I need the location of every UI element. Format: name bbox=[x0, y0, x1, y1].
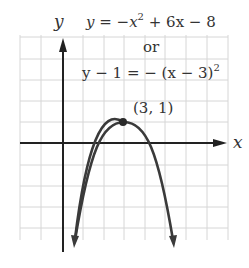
equation-vertex-form: y − 1 = − (x − 3)2 bbox=[81, 62, 220, 82]
curve-right-arrow-icon bbox=[169, 235, 177, 248]
x-axis-label: x bbox=[233, 132, 243, 152]
vertex-label: (3, 1) bbox=[133, 99, 173, 117]
or-connector: or bbox=[143, 38, 160, 56]
y-axis-label: y bbox=[53, 11, 64, 31]
equation-standard: y = −x2 + 6x − 8 bbox=[85, 11, 216, 31]
y-axis bbox=[59, 38, 67, 252]
y-axis-arrow-icon bbox=[59, 38, 67, 52]
x-axis-arrow-icon bbox=[213, 139, 227, 147]
vertex-point bbox=[119, 118, 127, 126]
parabola-figure: y x y = −x2 + 6x − 8 or y − 1 = − (x − 3… bbox=[0, 0, 249, 268]
curve-left-arrow-icon bbox=[71, 235, 79, 248]
